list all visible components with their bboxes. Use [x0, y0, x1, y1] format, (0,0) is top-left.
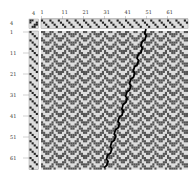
drawdown-cell: [173, 128, 175, 130]
drawdown-cell: [75, 65, 77, 67]
threading-mark: [121, 24, 123, 26]
drawdown-cell: [146, 69, 148, 71]
drawdown-cell: [163, 138, 165, 140]
drawdown-cell: [140, 168, 142, 170]
drawdown-cell: [140, 69, 142, 71]
drawdown-cell: [108, 149, 110, 151]
drawdown-cell: [178, 37, 180, 39]
drawdown-cell: [102, 123, 104, 125]
drawdown-cell: [104, 60, 106, 62]
drawdown-cell: [106, 113, 108, 115]
drawdown-cell: [60, 130, 62, 132]
drawdown-cell: [102, 115, 104, 117]
drawdown-cell: [121, 50, 123, 52]
drawdown-cell: [41, 39, 43, 41]
drawdown-cell: [70, 102, 72, 104]
drawdown-cell: [159, 56, 161, 58]
drawdown-cell: [106, 44, 108, 46]
drawdown-cell: [186, 147, 188, 149]
drawdown-cell: [64, 84, 66, 86]
treadling-mark: [32, 58, 34, 60]
drawdown-cell: [100, 134, 102, 136]
drawdown-cell: [73, 84, 75, 86]
drawdown-cell: [148, 92, 150, 94]
drawdown-cell: [142, 149, 144, 151]
treadling-mark: [30, 123, 32, 125]
drawdown-cell: [62, 69, 64, 71]
drawdown-cell: [56, 113, 58, 115]
drawdown-cell: [87, 105, 89, 107]
drawdown-cell: [161, 140, 163, 142]
drawdown-cell: [96, 102, 98, 104]
treadling-mark: [36, 130, 38, 132]
tie-up-cell: [30, 20, 32, 22]
drawdown-cell: [169, 56, 171, 58]
treadling-mark: [30, 140, 32, 142]
drawdown-cell: [58, 31, 60, 33]
drawdown-cell: [157, 44, 159, 46]
drawdown-cell: [119, 98, 121, 100]
drawdown-cell: [133, 90, 135, 92]
drawdown-cell: [98, 144, 100, 146]
drawdown-cell: [87, 44, 89, 46]
drawdown-cell: [169, 100, 171, 102]
drawdown-cell: [146, 151, 148, 153]
drawdown-cell: [117, 149, 119, 151]
treadling-mark: [30, 56, 32, 58]
drawdown-cell: [104, 58, 106, 60]
drawdown-cell: [102, 132, 104, 134]
drawdown-cell: [159, 98, 161, 100]
drawdown-cell: [85, 39, 87, 41]
drawdown-cell: [154, 42, 156, 44]
drawdown-cell: [133, 63, 135, 65]
drawdown-cell: [73, 92, 75, 94]
drawdown-cell: [159, 39, 161, 41]
drawdown-cell: [140, 161, 142, 163]
drawdown-cell: [85, 113, 87, 115]
drawdown-cell: [45, 161, 47, 163]
drawdown-cell: [58, 73, 60, 75]
drawdown-cell: [94, 168, 96, 170]
drawdown-cell: [159, 157, 161, 159]
drawdown-cell: [91, 132, 93, 134]
drawdown-cell: [171, 94, 173, 96]
drawdown-cell: [64, 35, 66, 37]
drawdown-cell: [178, 121, 180, 123]
drawdown-cell: [68, 42, 70, 44]
drawdown-cell: [161, 48, 163, 50]
drawdown-cell: [100, 73, 102, 75]
drawdown-cell: [171, 134, 173, 136]
drawdown-cell: [91, 37, 93, 39]
drawdown-cell: [110, 157, 112, 159]
drawdown-cell: [138, 94, 140, 96]
left-corner-label: 4: [10, 20, 13, 26]
treadling-mark: [32, 109, 34, 111]
drawdown-cell: [85, 157, 87, 159]
drawdown-cell: [77, 140, 79, 142]
drawdown-cell: [75, 100, 77, 102]
drawdown-cell: [163, 63, 165, 65]
drawdown-cell: [129, 109, 131, 111]
drawdown-cell: [79, 134, 81, 136]
drawdown-cell: [64, 67, 66, 69]
drawdown-cell: [178, 71, 180, 73]
drawdown-cell: [142, 132, 144, 134]
top-tick-label: 11: [62, 9, 68, 15]
drawdown-cell: [163, 96, 165, 98]
treadling-mark: [30, 90, 32, 92]
drawdown-cell: [91, 163, 93, 165]
drawdown-cell: [41, 56, 43, 58]
drawdown-cell: [115, 144, 117, 146]
drawdown-cell: [148, 117, 150, 119]
drawdown-cell: [41, 147, 43, 149]
drawdown-cell: [167, 54, 169, 56]
drawdown-cell: [165, 69, 167, 71]
drawdown-cell: [152, 54, 154, 56]
drawdown-cell: [117, 140, 119, 142]
drawdown-cell: [47, 128, 49, 130]
drawdown-cell: [123, 42, 125, 44]
drawdown-cell: [129, 161, 131, 163]
drawdown-cell: [173, 52, 175, 54]
drawdown-cell: [102, 147, 104, 149]
drawdown-cell: [85, 130, 87, 132]
